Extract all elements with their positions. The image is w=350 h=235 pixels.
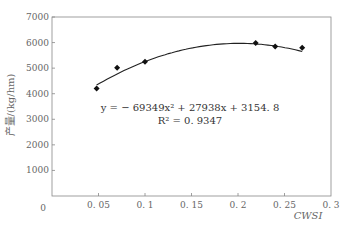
- x-axis-title: CWSI: [294, 210, 324, 221]
- data-point-diamond: [272, 43, 278, 49]
- data-point-diamond: [114, 65, 120, 71]
- y-tick-label: 2000: [26, 140, 49, 150]
- trendline-curve: [97, 43, 303, 85]
- data-point-diamond: [253, 40, 259, 46]
- data-points: [94, 40, 306, 92]
- y-tick-label: 4000: [26, 89, 49, 99]
- y-tick-label: 3000: [26, 114, 49, 124]
- r-squared-label: R² = 0. 9347: [158, 115, 222, 126]
- y-tick-label: 6000: [26, 38, 49, 48]
- x-tick-label: 0. 2: [229, 200, 246, 210]
- y-axis-title: 产量/(kg/hm): [4, 73, 16, 136]
- x-tick-label: 0. 15: [180, 200, 203, 210]
- data-point-diamond: [142, 59, 148, 65]
- x-axis-ticks: 0. 050. 10. 150. 20. 250. 3: [87, 193, 340, 210]
- y-tick-label: 1000: [26, 165, 49, 175]
- y-axis-ticks: 01000200030004000500060007000: [26, 12, 55, 213]
- data-point-diamond: [299, 45, 305, 51]
- yield-vs-cwsi-chart: 01000200030004000500060007000 0. 050. 10…: [0, 0, 350, 235]
- x-tick-label: 0. 05: [87, 200, 110, 210]
- y-tick-label: 7000: [26, 12, 49, 22]
- y-tick-label: 5000: [26, 63, 49, 73]
- data-point-diamond: [94, 86, 100, 92]
- y-tick-label: 0: [40, 203, 46, 213]
- equation-label: y = − 69349x² + 27938x + 3154. 8: [100, 102, 280, 113]
- x-tick-label: 0. 25: [273, 200, 296, 210]
- x-tick-label: 0. 1: [136, 200, 153, 210]
- x-tick-label: 0. 3: [322, 200, 339, 210]
